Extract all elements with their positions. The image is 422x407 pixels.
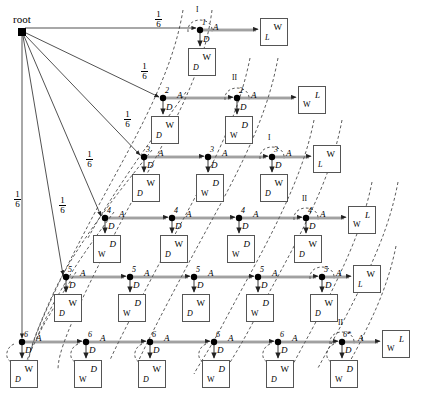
edge-label-d-r1-1: D: [203, 34, 210, 44]
node-label-r3-n2: 3: [210, 145, 214, 154]
observation-box: W D: [10, 360, 38, 388]
box-glyph-l: L: [315, 90, 320, 100]
box-glyph-w: W: [303, 100, 311, 109]
box-glyph-d: D: [91, 364, 98, 374]
observation-box: W D: [132, 174, 160, 202]
observation-box: W D: [266, 360, 294, 388]
box-glyph-l: L: [318, 160, 322, 169]
edge-label-a-r4-3: A: [253, 209, 259, 219]
node-label-r6-n5: 6: [280, 330, 284, 339]
terminal-box: W L: [353, 265, 381, 293]
box-glyph-w: W: [98, 250, 106, 259]
node-label-r4-n1: 4: [107, 206, 111, 215]
node-label-r5-n1: 5: [68, 265, 72, 274]
edge-label-a-r2-2: A: [251, 90, 257, 100]
box-glyph-w: W: [274, 22, 283, 32]
box-glyph-w: W: [232, 250, 240, 259]
observation-box: W D: [294, 235, 322, 263]
edge-label-d-r2-2: D: [240, 102, 247, 112]
node-label-r1-n1: 1: [202, 18, 206, 27]
box-glyph-w: W: [327, 149, 336, 159]
box-glyph-d: D: [110, 239, 117, 249]
terminal-box: W L: [260, 18, 288, 46]
node-label-r5-n3: 5: [196, 265, 200, 274]
edge-label-d-r6-4: D: [217, 345, 224, 355]
branch-prob-3: 1 6: [124, 110, 131, 129]
edge-label-a-r5-2: A: [144, 268, 150, 278]
edge-label-a-r2-1: A: [177, 90, 183, 100]
roman-label-r2: II: [232, 73, 237, 82]
edge-label-d-r6-3: D: [153, 345, 160, 355]
observation-box: D W: [330, 360, 358, 388]
edge-label-d-r5-3: D: [197, 280, 204, 290]
observation-box: D W: [118, 294, 146, 322]
edge-label-a-r5-3: A: [208, 268, 214, 278]
branch-prob-4: 1 6: [86, 150, 93, 169]
edge-label-d-r3-3: D: [275, 160, 282, 170]
root-node: [18, 28, 26, 36]
box-glyph-w: W: [79, 375, 87, 384]
edge-label-d-r3-1: D: [147, 160, 154, 170]
edge-label-d-r6-1: D: [25, 345, 32, 355]
roman-label-r4: II: [302, 194, 307, 203]
observation-box: D W: [225, 116, 253, 144]
node-label-r5-n4: 5: [260, 265, 264, 274]
box-glyph-w: W: [166, 120, 175, 130]
box-glyph-d: D: [59, 309, 65, 318]
box-glyph-w: W: [325, 298, 334, 308]
observation-box: W D: [182, 294, 210, 322]
node-label-r3-n3: 3: [274, 145, 278, 154]
edge-label-a-r5-5: A: [336, 268, 342, 278]
roman-label-r6: II: [338, 318, 343, 327]
box-glyph-w: W: [309, 239, 318, 249]
branch-prob-5: 1 6: [59, 196, 66, 215]
node-label-r4-n4: 4: [308, 206, 312, 215]
terminal-box: L W: [298, 86, 326, 114]
edge-label-a-r6-5: A: [292, 333, 298, 343]
edge-label-a-r4-4: A: [320, 209, 326, 219]
box-glyph-d: D: [263, 298, 270, 308]
box-glyph-d: D: [137, 189, 143, 198]
diagram-canvas: root 1 6 1 6 1 6 1 6 1 6 1 6 1 I A D 2 2…: [0, 0, 422, 407]
box-glyph-w: W: [203, 52, 212, 62]
node-label-r6-n3: 6: [152, 330, 156, 339]
box-glyph-w: W: [147, 178, 156, 188]
branch-prob-1: 1 6: [155, 10, 162, 29]
edge-label-a-r6-6: A: [358, 333, 364, 343]
box-glyph-d: D: [187, 309, 193, 318]
root-label: root: [13, 13, 31, 25]
edge-label-d-r5-5: D: [325, 280, 332, 290]
edge-label-a-r4-2: A: [186, 209, 192, 219]
observation-box: W D: [138, 360, 166, 388]
box-glyph-l: L: [399, 334, 404, 344]
node-label-r6-n6: 6*: [343, 330, 351, 339]
box-glyph-w: W: [251, 309, 259, 318]
node-label-r3-n1: 3: [146, 145, 150, 154]
box-glyph-w: W: [201, 189, 209, 198]
box-glyph-d: D: [347, 364, 354, 374]
box-glyph-d: D: [193, 63, 199, 72]
edge-label-d-r6-6: D: [345, 345, 352, 355]
edge-label-a-r4-1: A: [119, 209, 125, 219]
box-glyph-d: D: [265, 189, 271, 198]
box-glyph-d: D: [244, 239, 251, 249]
box-glyph-d: D: [315, 309, 321, 318]
edge-label-a-r5-4: A: [272, 268, 278, 278]
node-label-r2-n2: 2: [239, 86, 243, 95]
edge-label-d-r6-2: D: [89, 345, 96, 355]
observation-box: D W: [227, 235, 255, 263]
box-glyph-w: W: [123, 309, 131, 318]
edge-label-d-r6-5: D: [281, 345, 288, 355]
node-label-r2-n1: 2: [165, 86, 169, 95]
box-glyph-w: W: [175, 239, 184, 249]
box-glyph-w: W: [69, 298, 78, 308]
box-glyph-l: L: [358, 280, 362, 289]
node-label-r4-n3: 4: [241, 206, 245, 215]
branch-prob-2: 1 6: [141, 62, 148, 81]
roman-label-r3: I: [268, 133, 271, 142]
observation-box: W D: [260, 174, 288, 202]
edge-label-a-r3-1: A: [158, 148, 164, 158]
edge-label-a-r5-1: A: [80, 268, 86, 278]
box-glyph-w: W: [25, 364, 34, 374]
node-label-r6-n2: 6: [88, 330, 92, 339]
